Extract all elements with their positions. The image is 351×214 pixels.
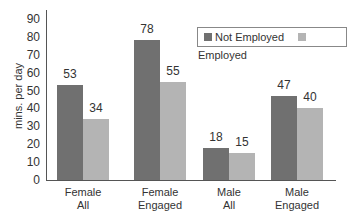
bar-value-label: 55 — [158, 65, 188, 77]
bar — [57, 85, 83, 180]
y-tick-label: 10 — [18, 156, 40, 168]
bar-value-label: 34 — [81, 102, 111, 114]
y-tick-label: 40 — [18, 102, 40, 114]
x-category-label: MaleAll — [199, 186, 259, 212]
bar — [83, 119, 109, 180]
x-category-label: MaleEngaged — [267, 186, 327, 212]
bar-value-label: 40 — [295, 91, 325, 103]
bar — [297, 108, 323, 180]
y-tick-label: 30 — [18, 120, 40, 132]
x-category-label: FemaleEngaged — [130, 186, 190, 212]
bar — [271, 96, 297, 180]
y-axis-line — [46, 10, 47, 181]
x-category-label: FemaleAll — [53, 186, 113, 212]
y-tick-label: 90 — [18, 13, 40, 25]
x-axis-line — [46, 180, 336, 181]
bar — [229, 153, 255, 180]
bar-value-label: 78 — [132, 23, 162, 35]
bar-value-label: 53 — [55, 68, 85, 80]
y-tick-label: 80 — [18, 31, 40, 43]
y-tick-label: 70 — [18, 49, 40, 61]
y-tick-label: 50 — [18, 85, 40, 97]
bar-value-label: 47 — [269, 79, 299, 91]
legend-label-employed: Employed — [198, 49, 247, 61]
y-tick-label: 0 — [18, 174, 40, 186]
legend-swatch-not-employed — [204, 33, 212, 41]
bar — [203, 148, 229, 180]
legend: Not EmployedEmployed — [197, 27, 347, 47]
bar — [160, 82, 186, 180]
y-tick-label: 60 — [18, 67, 40, 79]
legend-swatch-employed — [298, 33, 306, 41]
bar — [134, 40, 160, 180]
legend-label-not-employed: Not Employed — [215, 31, 284, 43]
y-tick-label: 20 — [18, 138, 40, 150]
bar-chart: mins. per day 0102030405060708090 533478… — [0, 0, 351, 214]
bar-value-label: 15 — [227, 136, 257, 148]
